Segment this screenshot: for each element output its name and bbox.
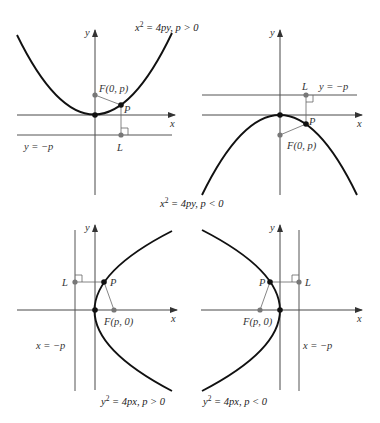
parabola-curve (202, 230, 280, 391)
point-p (118, 102, 124, 108)
focus-to-point-segment (280, 124, 306, 135)
point-l (296, 279, 301, 284)
focus-label: F(p, 0) (242, 316, 273, 328)
vertex-point (277, 307, 283, 313)
point-l-label: L (301, 81, 308, 92)
y-axis-label: y (269, 27, 275, 38)
focus-point (277, 132, 282, 137)
panel-top-left: y x F(0, p) P L y = −p x2 = 4py, p > 0 (17, 20, 199, 195)
point-p-label: P (109, 277, 117, 288)
focus-point (111, 307, 116, 312)
x-axis-label: x (356, 118, 362, 129)
focus-point (257, 307, 262, 312)
point-p (267, 279, 273, 285)
parabola-curve (202, 115, 357, 195)
y-axis-label: y (84, 27, 90, 38)
x-axis-label: x (170, 313, 176, 324)
directrix-label: x = −p (35, 340, 65, 351)
y-axis-label: y (269, 222, 275, 233)
point-l-label: L (304, 277, 311, 288)
point-p (101, 279, 107, 285)
vertex-point (92, 307, 98, 313)
directrix-label: y = −p (23, 141, 53, 152)
x-axis-label: x (356, 313, 362, 324)
parabola-curve (95, 231, 173, 391)
point-p-label: P (123, 104, 131, 115)
focus-point (92, 92, 97, 97)
panel-bottom-right: y x F(p, 0) P L x = −p y2 = 4px, p < 0 (201, 222, 362, 407)
parabola-curve (17, 33, 172, 115)
point-l-label: L (116, 142, 123, 153)
point-l (118, 132, 123, 137)
equation-caption: x2 = 4py, p < 0 (159, 196, 224, 209)
focus-label: F(0, p) (286, 140, 317, 152)
y-axis-label: y (84, 222, 90, 233)
parabola-diagram: y x F(0, p) P L y = −p x2 = 4py, p > 0 y… (0, 0, 380, 423)
vertex-point (277, 112, 283, 118)
equation-caption: y2 = 4px, p > 0 (100, 394, 166, 407)
directrix-label: x = −p (302, 340, 332, 351)
point-p-label: P (258, 277, 266, 288)
point-l-label: L (61, 277, 68, 288)
focus-label: F(0, p) (98, 83, 129, 95)
x-axis-label: x (169, 118, 175, 129)
point-l (303, 92, 308, 97)
directrix-label: y = −p (318, 81, 348, 92)
equation-caption: y2 = 4px, p < 0 (202, 394, 268, 407)
equation-caption: x2 = 4py, p > 0 (134, 20, 199, 33)
point-l (72, 279, 77, 284)
focus-to-point-segment (95, 95, 121, 105)
vertex-point (92, 112, 98, 118)
point-p (303, 121, 309, 127)
focus-label: F(p, 0) (103, 316, 134, 328)
point-p-label: P (308, 116, 316, 127)
panel-bottom-left: y x F(p, 0) P L x = −p y2 = 4px, p > 0 (17, 222, 177, 407)
panel-top-right: y x F(0, p) P L y = −p x2 = 4py, p < 0 (159, 27, 362, 209)
